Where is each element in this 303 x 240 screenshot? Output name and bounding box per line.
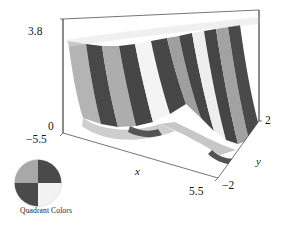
legend-quadrant-bottom-left [15, 183, 38, 206]
legend-quadrant-top-left [15, 160, 38, 183]
legend-quadrant-top-right [38, 160, 61, 183]
y-axis-max-tick-label: 2 [265, 115, 271, 127]
x-axis-min-tick-label: −5.5 [26, 134, 47, 146]
z-axis-min-tick-label: 0 [48, 121, 54, 133]
y-axis-min-tick-label: −2 [222, 180, 234, 192]
quadrant-colors-caption: Quadrant Colors [5, 206, 87, 215]
z-axis-max-tick-label: 3.8 [28, 26, 42, 38]
legend-quadrant-bottom-right [38, 183, 61, 206]
x-axis-max-tick-label: 5.5 [189, 186, 203, 198]
y-axis-name-label: y [256, 156, 261, 167]
x-axis-name-label: x [135, 166, 140, 177]
quadrant-colors-legend [14, 159, 62, 207]
